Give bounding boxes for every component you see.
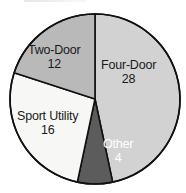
slice-label-four-door-value: 28 — [101, 72, 156, 86]
pie-chart: Four-Door 28 Other 4 Sport Utility 16 Tw… — [0, 0, 186, 193]
slice-label-other-value: 4 — [103, 151, 133, 165]
slice-label-four-door-name: Four-Door — [101, 58, 156, 72]
slice-label-other: Other 4 — [103, 137, 133, 165]
slice-label-sport-utility-value: 16 — [17, 123, 78, 137]
slice-label-sport-utility: Sport Utility 16 — [17, 109, 78, 137]
pie-chart-svg — [0, 0, 186, 193]
slice-label-two-door-value: 12 — [28, 57, 81, 71]
slice-label-four-door: Four-Door 28 — [101, 58, 156, 86]
slice-label-two-door-name: Two-Door — [28, 43, 81, 57]
slice-label-other-name: Other — [103, 137, 133, 151]
slice-label-sport-utility-name: Sport Utility — [17, 109, 78, 123]
slice-label-two-door: Two-Door 12 — [28, 43, 81, 71]
